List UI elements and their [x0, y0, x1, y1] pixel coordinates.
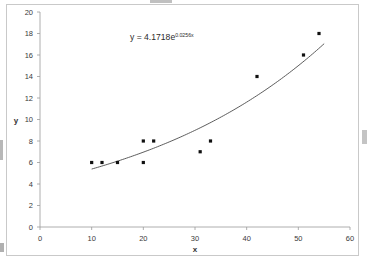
data-point [209, 139, 212, 142]
data-point [142, 161, 145, 164]
y-axis-tick-labels: 02468101214161820 [25, 8, 33, 232]
chart-container: 02468101214161820 y 0102030405060 x y = … [0, 0, 367, 265]
data-point [255, 75, 258, 78]
x-axis-ticks [40, 227, 350, 230]
data-point [142, 139, 145, 142]
equation-base: y = 4.1718e [130, 32, 175, 42]
x-tick-label: 30 [191, 234, 199, 243]
y-axis-group: 02468101214161820 y [14, 8, 40, 232]
trendline-equation-label: y = 4.1718e0.0256x [130, 32, 194, 42]
x-tick-label: 50 [294, 234, 302, 243]
data-point [90, 161, 93, 164]
x-tick-label: 40 [242, 234, 250, 243]
x-axis-tick-labels: 0102030405060 [38, 234, 354, 243]
y-tick-label: 4 [29, 180, 33, 189]
x-tick-label: 20 [139, 234, 147, 243]
exponential-trendline [92, 44, 325, 169]
data-point [302, 53, 305, 56]
y-tick-label: 18 [25, 29, 33, 38]
x-tick-label: 0 [38, 234, 42, 243]
y-tick-label: 6 [29, 158, 33, 167]
y-tick-label: 8 [29, 137, 33, 146]
equation-exponent: 0.0256x [175, 32, 194, 38]
x-tick-label: 10 [87, 234, 95, 243]
data-point [116, 161, 119, 164]
y-tick-label: 0 [29, 223, 33, 232]
x-axis-group: 0102030405060 x [38, 227, 354, 254]
data-markers [90, 32, 321, 164]
scatter-plot: 02468101214161820 y 0102030405060 x y = … [0, 0, 367, 265]
y-tick-label: 14 [25, 72, 33, 81]
y-tick-label: 2 [29, 201, 33, 210]
y-tick-label: 10 [25, 115, 33, 124]
y-axis-ticks [37, 12, 40, 227]
y-tick-label: 16 [25, 51, 33, 60]
data-point [317, 32, 320, 35]
x-axis-title: x [193, 245, 198, 254]
y-axis-title: y [14, 116, 19, 125]
data-point [152, 139, 155, 142]
y-tick-label: 12 [25, 94, 33, 103]
data-point [199, 150, 202, 153]
x-tick-label: 60 [346, 234, 354, 243]
y-tick-label: 20 [25, 8, 33, 17]
data-point [100, 161, 103, 164]
